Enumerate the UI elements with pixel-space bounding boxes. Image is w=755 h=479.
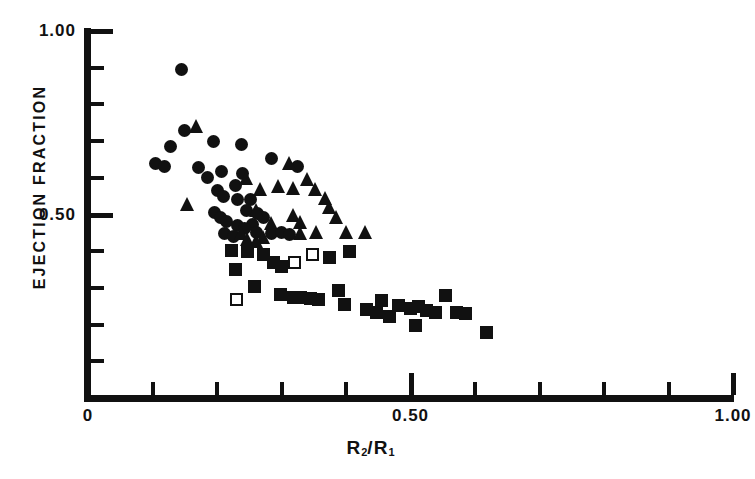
x-axis-title-base2: R bbox=[374, 437, 389, 458]
y-tick-0.7 bbox=[91, 139, 104, 143]
data-point-filled-square bbox=[332, 284, 345, 297]
x-axis-title-base1: R bbox=[347, 437, 362, 458]
data-point-filled-square bbox=[343, 245, 356, 258]
data-point-filled-triangle bbox=[309, 225, 323, 239]
y-tick-0.9 bbox=[91, 66, 104, 70]
x-tick-0.9 bbox=[667, 382, 671, 395]
y-axis-title: EJECTION FRACTION bbox=[28, 77, 52, 297]
data-point-filled-circle bbox=[201, 171, 214, 184]
data-point-filled-square bbox=[409, 319, 422, 332]
data-point-filled-circle bbox=[207, 135, 220, 148]
x-tick-label-0.5: 0.50 bbox=[376, 406, 446, 426]
data-point-open-square bbox=[288, 256, 301, 269]
y-tick-0.2 bbox=[91, 323, 104, 327]
data-point-filled-square bbox=[225, 244, 238, 257]
data-point-filled-square bbox=[375, 294, 388, 307]
data-point-filled-square bbox=[248, 280, 261, 293]
x-tick-0.3 bbox=[280, 382, 284, 395]
data-point-filled-square bbox=[480, 326, 493, 339]
data-point-filled-triangle bbox=[358, 225, 372, 239]
y-tick-0.3 bbox=[91, 286, 104, 290]
y-tick-0.5 bbox=[91, 213, 113, 218]
data-point-filled-triangle bbox=[253, 182, 267, 196]
data-point-open-square bbox=[306, 248, 319, 261]
data-point-filled-square bbox=[439, 289, 452, 302]
data-point-filled-triangle bbox=[286, 181, 300, 195]
data-point-filled-square bbox=[459, 307, 472, 320]
data-point-filled-circle bbox=[217, 190, 230, 203]
data-point-filled-square bbox=[429, 306, 442, 319]
data-point-filled-square bbox=[338, 298, 351, 311]
x-tick-label-1: 1.00 bbox=[698, 406, 755, 426]
x-tick-0.5 bbox=[409, 373, 414, 395]
data-point-open-square bbox=[230, 293, 243, 306]
y-tick-1 bbox=[91, 29, 113, 34]
y-tick-0.1 bbox=[91, 359, 104, 363]
x-tick-0.8 bbox=[602, 382, 606, 395]
data-point-filled-square bbox=[323, 251, 336, 264]
data-point-filled-triangle bbox=[249, 203, 263, 217]
data-point-filled-circle bbox=[164, 140, 177, 153]
data-point-filled-triangle bbox=[282, 156, 296, 170]
x-tick-label-0: 0 bbox=[53, 406, 123, 426]
data-point-filled-triangle bbox=[239, 171, 253, 185]
data-point-filled-circle bbox=[215, 165, 228, 178]
data-point-filled-triangle bbox=[264, 216, 278, 230]
y-tick-label-1: 1.00 bbox=[18, 21, 76, 41]
data-point-filled-circle bbox=[235, 138, 248, 151]
x-axis-line bbox=[84, 395, 734, 402]
data-point-filled-square bbox=[241, 245, 254, 258]
data-point-filled-circle bbox=[231, 193, 244, 206]
data-point-filled-triangle bbox=[293, 226, 307, 240]
data-point-filled-triangle bbox=[180, 197, 194, 211]
data-point-filled-square bbox=[274, 288, 287, 301]
x-tick-0.6 bbox=[473, 382, 477, 395]
x-axis-title: R2/R1 bbox=[0, 437, 741, 459]
x-axis-title-sub2: 1 bbox=[388, 446, 394, 458]
x-tick-1 bbox=[731, 373, 736, 395]
x-axis-title-sub1: 2 bbox=[361, 446, 367, 458]
y-tick-0.8 bbox=[91, 102, 104, 106]
data-point-filled-square bbox=[229, 263, 242, 276]
data-point-filled-triangle bbox=[339, 225, 353, 239]
x-tick-0.2 bbox=[215, 382, 219, 395]
data-point-filled-triangle bbox=[329, 210, 343, 224]
data-point-filled-circle bbox=[175, 63, 188, 76]
data-point-filled-circle bbox=[265, 152, 278, 165]
y-tick-0.4 bbox=[91, 249, 104, 253]
data-point-filled-square bbox=[370, 306, 383, 319]
y-tick-0.6 bbox=[91, 176, 104, 180]
data-point-filled-circle bbox=[158, 160, 171, 173]
y-axis-line bbox=[84, 28, 91, 402]
x-tick-0.7 bbox=[538, 382, 542, 395]
data-point-filled-triangle bbox=[189, 119, 203, 133]
x-tick-0.1 bbox=[151, 382, 155, 395]
y-axis-title-text: EJECTION FRACTION bbox=[28, 77, 52, 297]
data-point-filled-square bbox=[275, 260, 288, 273]
data-point-filled-triangle bbox=[271, 179, 285, 193]
data-point-filled-square bbox=[312, 293, 325, 306]
x-tick-0.4 bbox=[344, 382, 348, 395]
